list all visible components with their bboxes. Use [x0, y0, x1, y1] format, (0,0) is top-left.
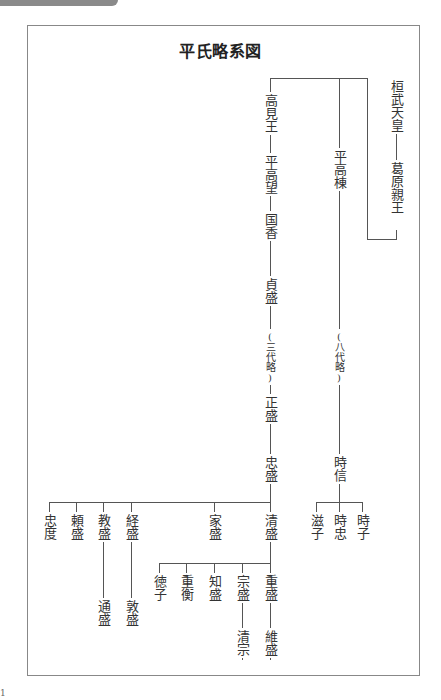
person-tokitada: 時忠 [331, 512, 347, 542]
line-stub [214, 502, 215, 512]
line-kazurahara-stub [396, 230, 397, 240]
person-tomomori: 知盛 [206, 573, 222, 603]
line-stub [242, 563, 243, 573]
line-stub [214, 563, 215, 573]
person-shigehira: 重衡 [178, 573, 194, 603]
person-kiyomori: 清盛 [262, 512, 278, 542]
person-kunika: 国香 [262, 211, 278, 241]
diagram-title: 平氏略系図 [0, 38, 441, 62]
line-kiyomori-branch [159, 563, 271, 564]
person-tadamori: 忠盛 [262, 454, 278, 484]
person-masamori: 正盛 [262, 394, 278, 424]
person-takami: 高見王 [262, 92, 278, 135]
person-atsumori: 敦盛 [123, 598, 139, 628]
line-stub [49, 502, 50, 512]
person-sadamori: 貞盛 [262, 276, 278, 306]
person-kanmu: 桓武天皇 [388, 78, 404, 134]
line-to-takamune [339, 78, 340, 148]
line-norimori-michimori [103, 540, 104, 600]
person-norimori: 教盛 [95, 512, 111, 542]
line-bracket-down [367, 78, 368, 239]
omitted-8-generations: (八代略) [333, 329, 346, 385]
line-stub [131, 502, 132, 512]
person-takamochi: 平高望 [262, 153, 278, 196]
diagram-frame [27, 25, 420, 676]
person-shigemori: 重盛 [262, 573, 278, 603]
line-tsunemori-atsumori [131, 540, 132, 600]
person-kazurahara: 葛原親王 [388, 160, 404, 216]
line-stub [103, 502, 104, 512]
person-tokiko: 時子 [354, 512, 370, 542]
line-stub [316, 502, 317, 512]
person-michimori: 通盛 [95, 598, 111, 628]
line-bracket-bottom [367, 239, 397, 240]
omitted-3-generations: (三代略) [264, 329, 277, 385]
line-stub [159, 563, 160, 573]
line-tokinobu-branch [316, 502, 363, 503]
line-top-bar [270, 78, 368, 79]
person-munemori: 宗盛 [234, 573, 250, 603]
person-tadanori: 忠度 [41, 512, 57, 542]
person-tsunemori: 経盛 [123, 512, 139, 542]
person-shigeko: 滋子 [308, 512, 324, 542]
page-tab [0, 0, 118, 6]
line-tadamori-branch [49, 502, 271, 503]
line-stub [186, 563, 187, 573]
person-yorimori: 頼盛 [68, 512, 84, 542]
person-kiyomune: 清宗 [234, 628, 250, 658]
person-tokinobu: 時信 [331, 454, 347, 484]
person-koremori: 維盛 [262, 628, 278, 658]
person-iemori: 家盛 [206, 512, 222, 542]
person-takamune: 平高棟 [331, 148, 347, 191]
person-tokuko: 徳子 [151, 573, 167, 603]
line-stub [362, 502, 363, 512]
page-marker: 1 [0, 688, 6, 698]
line-stub [76, 502, 77, 512]
line-to-takami [270, 78, 271, 92]
